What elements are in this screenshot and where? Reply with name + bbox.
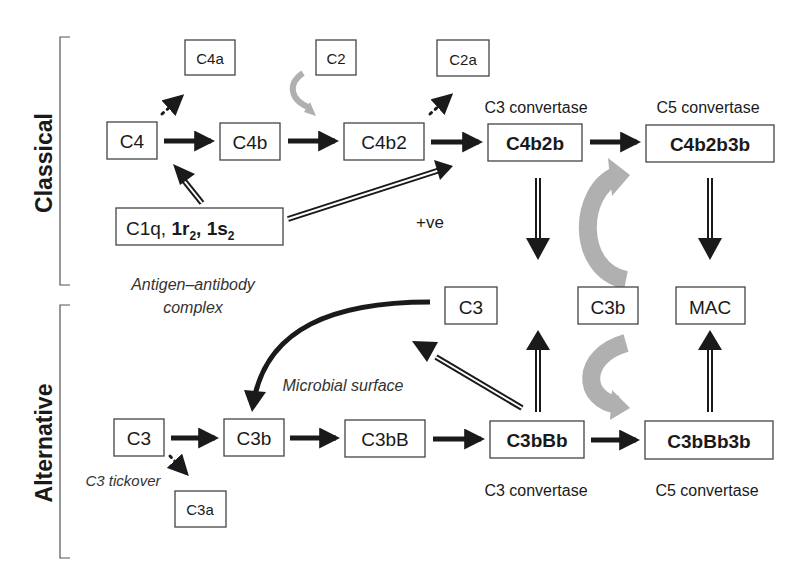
classical-bracket <box>60 37 70 285</box>
node-c2: C2 <box>316 40 356 75</box>
vertical-up-arrows <box>412 330 722 412</box>
node-c3a: C3a <box>175 491 226 527</box>
svg-text:C4: C4 <box>120 131 145 152</box>
node-c3-mid: C3 <box>445 287 497 324</box>
label-positive: +ve <box>416 213 444 232</box>
svg-text:C4b2b: C4b2b <box>506 133 564 154</box>
node-c3bB: C3bB <box>345 420 425 457</box>
node-c4b2b: C4b2b <box>488 124 582 161</box>
label-c3-convertase-top: C3 convertase <box>484 99 587 116</box>
svg-text:C4b2: C4b2 <box>361 132 406 153</box>
microbial-arrowhead-icon <box>244 390 266 412</box>
node-c4b: C4b <box>220 123 280 160</box>
svg-text:C2a: C2a <box>449 51 477 68</box>
svg-text:C2: C2 <box>326 50 345 67</box>
node-c4: C4 <box>107 122 157 159</box>
svg-text:C3b: C3b <box>237 428 272 449</box>
node-c3bBb3b: C3bBb3b <box>645 421 773 459</box>
svg-text:C3bB: C3bB <box>361 429 409 450</box>
svg-text:MAC: MAC <box>689 297 731 318</box>
alternative-bracket <box>60 305 70 558</box>
label-c3-tickover: C3 tickover <box>85 472 161 489</box>
svg-text:C3: C3 <box>459 297 483 318</box>
vertical-down-arrows <box>526 178 722 260</box>
svg-text:C3: C3 <box>127 428 151 449</box>
node-c3b-mid: C3b <box>578 287 638 324</box>
svg-text:C3bBb3b: C3bBb3b <box>667 431 750 452</box>
node-c2a: C2a <box>437 40 489 76</box>
label-complex: complex <box>163 299 224 316</box>
svg-text:C3bBb: C3bBb <box>506 430 567 451</box>
label-microbial-surface: Microbial surface <box>283 377 404 394</box>
label-c5-convertase-top: C5 convertase <box>656 99 759 116</box>
node-c3b-alt: C3b <box>224 419 284 456</box>
svg-text:C3a: C3a <box>186 501 214 518</box>
label-c5-convertase-bottom: C5 convertase <box>655 482 758 499</box>
node-mac: MAC <box>676 287 745 324</box>
node-c4b2: C4b2 <box>344 123 424 160</box>
label-antigen-antibody: Antigen–antibody <box>130 276 256 293</box>
node-c3bBb: C3bBb <box>490 421 584 458</box>
node-c3-alt: C3 <box>114 419 164 456</box>
node-c1-complex: C1q, 1r2, 1s2 <box>116 208 283 245</box>
complement-pathway-diagram: Classical Alternative C4a C2 C2a C4 C4b … <box>0 0 794 580</box>
svg-text:C4b2b3b: C4b2b3b <box>670 134 750 155</box>
svg-text:C4a: C4a <box>196 50 224 67</box>
node-c4b2b3b: C4b2b3b <box>646 125 774 162</box>
svg-text:C4b: C4b <box>233 132 268 153</box>
section-label-classical: Classical <box>31 113 57 213</box>
svg-text:C3b: C3b <box>591 297 626 318</box>
label-c3-convertase-bottom: C3 convertase <box>484 482 587 499</box>
node-c4a: C4a <box>185 40 235 75</box>
section-label-alternative: Alternative <box>31 384 57 503</box>
